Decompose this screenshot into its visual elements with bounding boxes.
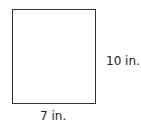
width-label: 7 in. (40, 110, 66, 122)
rectangle-shape (12, 9, 96, 104)
height-label: 10 in. (106, 55, 140, 67)
